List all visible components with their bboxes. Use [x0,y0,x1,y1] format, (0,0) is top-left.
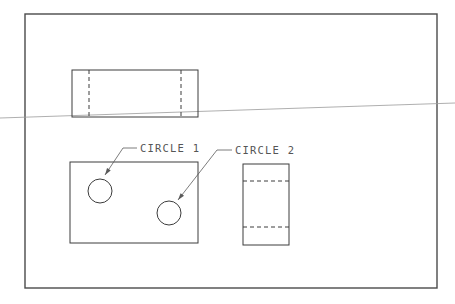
technical-drawing: CIRCLE 1 CIRCLE 2 [0,0,455,304]
stray-scan-line [0,103,455,118]
top-view-outline [72,70,198,117]
side-view-outline [243,164,289,245]
top-view [72,70,198,117]
leader-line-circle-2 [178,150,232,200]
label-circle-1: CIRCLE 1 [140,142,200,154]
circle-1-hole [88,179,112,203]
front-view-outline [70,162,198,243]
side-view [243,164,289,245]
arrowhead-circle-1-icon [105,168,111,175]
annotation-circle-1: CIRCLE 1 [105,142,200,175]
front-view [70,162,198,243]
circle-2-hole [157,201,181,225]
arrowhead-circle-2-icon [178,193,184,200]
drawing-frame [25,14,437,288]
label-circle-2: CIRCLE 2 [235,144,295,156]
